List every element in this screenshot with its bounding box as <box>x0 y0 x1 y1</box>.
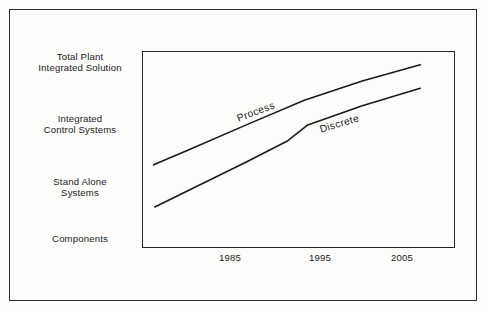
x-axis-tick-1985: 1985 <box>200 252 260 263</box>
y-axis-label-components: Components <box>20 233 140 244</box>
x-axis-tick-2005: 2005 <box>372 252 432 263</box>
chart-figure: Total Plant Integrated Solution Integrat… <box>0 0 487 312</box>
y-axis-label-total-plant-integrated-solution: Total Plant Integrated Solution <box>20 51 140 74</box>
plot-area-frame <box>142 51 455 248</box>
y-axis-label-integrated-control-systems: Integrated Control Systems <box>20 113 140 136</box>
y-axis-label-stand-alone-systems: Stand Alone Systems <box>20 176 140 199</box>
x-axis-tick-1995: 1995 <box>290 252 350 263</box>
